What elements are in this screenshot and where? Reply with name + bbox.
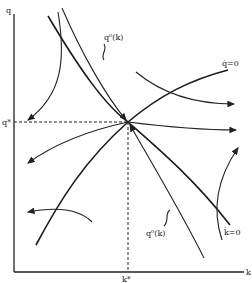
- label-pointer-lower: [164, 210, 170, 226]
- q-dot-zero-label: q̇=0: [222, 59, 239, 68]
- k-dot-zero-locus: [48, 16, 230, 225]
- x-axis-label: k: [246, 268, 251, 277]
- q-dot-zero-locus: [36, 70, 228, 245]
- trajectory-left: [28, 122, 128, 163]
- trajectory-right: [128, 122, 236, 130]
- trajectory-lower-left: [28, 209, 92, 222]
- stable-arm-upper: [62, 8, 126, 120]
- stable-arm-upper-label: q⁰(k): [104, 33, 123, 42]
- trajectory-upper-right: [136, 72, 234, 104]
- label-pointer-upper: [103, 44, 105, 60]
- stable-arm-lower-label: q⁰(k): [146, 229, 165, 238]
- k-star-label: k*: [122, 275, 131, 283]
- q-star-label: q*: [2, 118, 11, 127]
- stable-arm-lower: [130, 125, 204, 258]
- trajectory-lower-right: [217, 148, 238, 240]
- diagram-canvas: q k q* k* q⁰(k) q⁰(k) q̇=0 k̇=0: [0, 0, 252, 283]
- y-axis-label: q: [6, 6, 11, 15]
- k-dot-zero-label: k̇=0: [224, 227, 241, 237]
- trajectory-upper-left: [28, 12, 62, 120]
- phase-diagram: q k q* k* q⁰(k) q⁰(k) q̇=0 k̇=0: [0, 0, 252, 283]
